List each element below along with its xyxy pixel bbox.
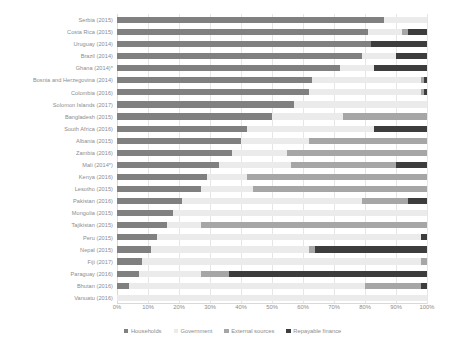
- bar-row[interactable]: [117, 62, 427, 74]
- bar-segment-external-sources[interactable]: [253, 186, 427, 192]
- bar-segment-households[interactable]: [117, 271, 139, 277]
- bar-segment-repayable-finance[interactable]: [229, 271, 427, 277]
- bar-row[interactable]: [117, 111, 427, 123]
- bar-segment-households[interactable]: [117, 234, 157, 240]
- bar-segment-government[interactable]: [340, 65, 374, 71]
- bar-segment-government[interactable]: [362, 53, 396, 59]
- bar-row[interactable]: [117, 280, 427, 292]
- bar-segment-government[interactable]: [182, 198, 362, 204]
- bar-segment-government[interactable]: [312, 77, 421, 83]
- bar-segment-government[interactable]: [173, 210, 427, 216]
- bar-segment-government[interactable]: [368, 29, 402, 35]
- bar-segment-government[interactable]: [384, 17, 427, 23]
- legend-item-government[interactable]: Government: [174, 328, 213, 334]
- category-label: Kenya (2016): [0, 171, 113, 183]
- bar-segment-households[interactable]: [117, 150, 232, 156]
- bar-segment-government[interactable]: [272, 113, 343, 119]
- bar-segment-households[interactable]: [117, 126, 247, 132]
- bar-segment-households[interactable]: [117, 246, 151, 252]
- bar-segment-government[interactable]: [309, 89, 421, 95]
- bar-row[interactable]: [117, 123, 427, 135]
- bar-segment-external-sources[interactable]: [421, 258, 427, 264]
- bar-row[interactable]: [117, 256, 427, 268]
- bar-segment-repayable-finance[interactable]: [424, 89, 427, 95]
- bar-row[interactable]: [117, 14, 427, 26]
- legend-item-households[interactable]: Households: [124, 328, 162, 334]
- bar-segment-households[interactable]: [117, 162, 219, 168]
- bar-segment-external-sources[interactable]: [365, 283, 421, 289]
- bar-segment-external-sources[interactable]: [201, 222, 427, 228]
- bar-segment-external-sources[interactable]: [201, 271, 229, 277]
- bar-row[interactable]: [117, 38, 427, 50]
- bar-segment-government[interactable]: [167, 222, 201, 228]
- bar-row[interactable]: [117, 99, 427, 111]
- bar-segment-repayable-finance[interactable]: [424, 77, 427, 83]
- bar-segment-repayable-finance[interactable]: [371, 41, 427, 47]
- bar-segment-government[interactable]: [157, 234, 421, 240]
- bar-row[interactable]: [117, 268, 427, 280]
- bar-segment-repayable-finance[interactable]: [315, 246, 427, 252]
- bar-segment-households[interactable]: [117, 89, 309, 95]
- bar-segment-households[interactable]: [117, 186, 201, 192]
- bar-segment-government[interactable]: [294, 101, 427, 107]
- bar-segment-households[interactable]: [117, 17, 384, 23]
- bar-row[interactable]: [117, 50, 427, 62]
- bar-segment-external-sources[interactable]: [247, 174, 427, 180]
- bar-segment-government[interactable]: [247, 126, 374, 132]
- bar-row[interactable]: [117, 171, 427, 183]
- bar-row[interactable]: [117, 147, 427, 159]
- bar-segment-households[interactable]: [117, 113, 272, 119]
- bar-segment-households[interactable]: [117, 174, 207, 180]
- bar-segment-repayable-finance[interactable]: [421, 283, 427, 289]
- bar-row[interactable]: [117, 232, 427, 244]
- bar-segment-external-sources[interactable]: [309, 138, 427, 144]
- bar-row[interactable]: [117, 74, 427, 86]
- bar-segment-households[interactable]: [117, 101, 294, 107]
- category-label: Bosnia and Herzegovina (2014): [0, 74, 113, 86]
- bar-segment-households[interactable]: [117, 77, 312, 83]
- bar-segment-repayable-finance[interactable]: [374, 126, 427, 132]
- category-label: South Africa (2016): [0, 123, 113, 135]
- legend-item-external-sources[interactable]: External sources: [224, 328, 274, 334]
- bar-row[interactable]: [117, 183, 427, 195]
- bar-segment-repayable-finance[interactable]: [408, 198, 427, 204]
- bar-segment-government[interactable]: [139, 271, 201, 277]
- bar-segment-government[interactable]: [129, 283, 365, 289]
- bar-segment-government[interactable]: [117, 295, 427, 301]
- bar-row[interactable]: [117, 219, 427, 231]
- bar-row[interactable]: [117, 207, 427, 219]
- bar-segment-households[interactable]: [117, 210, 173, 216]
- bar-segment-repayable-finance[interactable]: [421, 234, 427, 240]
- bar-segment-government[interactable]: [232, 150, 288, 156]
- bar-segment-government[interactable]: [142, 258, 421, 264]
- bar-segment-households[interactable]: [117, 222, 167, 228]
- bar-row[interactable]: [117, 87, 427, 99]
- bar-row[interactable]: [117, 159, 427, 171]
- bar-segment-repayable-finance[interactable]: [396, 162, 427, 168]
- bar-row[interactable]: [117, 244, 427, 256]
- bar-segment-repayable-finance[interactable]: [374, 65, 427, 71]
- bar-segment-government[interactable]: [151, 246, 309, 252]
- bar-row[interactable]: [117, 135, 427, 147]
- bar-segment-external-sources[interactable]: [287, 150, 427, 156]
- legend-item-repayable-finance[interactable]: Repayable finance: [286, 328, 341, 334]
- bar-segment-households[interactable]: [117, 258, 142, 264]
- bar-segment-repayable-finance[interactable]: [408, 29, 427, 35]
- bar-segment-households[interactable]: [117, 41, 371, 47]
- bar-row[interactable]: [117, 26, 427, 38]
- bar-segment-government[interactable]: [207, 174, 247, 180]
- bar-segment-external-sources[interactable]: [362, 198, 409, 204]
- bar-segment-repayable-finance[interactable]: [396, 53, 427, 59]
- bar-segment-external-sources[interactable]: [291, 162, 396, 168]
- bar-segment-households[interactable]: [117, 29, 368, 35]
- bar-segment-households[interactable]: [117, 65, 340, 71]
- bar-segment-government[interactable]: [241, 138, 309, 144]
- bar-segment-government[interactable]: [219, 162, 290, 168]
- bar-segment-households[interactable]: [117, 283, 129, 289]
- bar-segment-external-sources[interactable]: [343, 113, 427, 119]
- bar-row[interactable]: [117, 195, 427, 207]
- bar-segment-households[interactable]: [117, 198, 182, 204]
- bar-segment-households[interactable]: [117, 138, 241, 144]
- bar-segment-government[interactable]: [201, 186, 254, 192]
- bar-segment-households[interactable]: [117, 53, 362, 59]
